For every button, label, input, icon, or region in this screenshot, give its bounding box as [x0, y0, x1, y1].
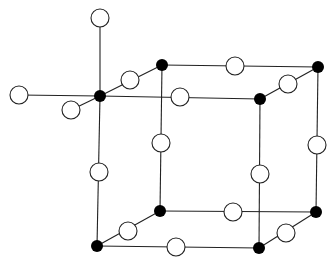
filled-atom-icon: [254, 93, 266, 105]
open-atom-icon: [308, 136, 326, 154]
filled-atom-icon: [156, 59, 168, 71]
open-atom-icon: [121, 71, 139, 89]
filled-atom-icon: [253, 242, 265, 254]
open-atom-icon: [91, 9, 109, 27]
open-atoms: [10, 9, 326, 256]
open-atom-icon: [62, 101, 80, 119]
filled-atom-icon: [312, 61, 324, 73]
bond-lines: [19, 18, 318, 248]
crystal-lattice-diagram: [0, 0, 333, 263]
open-atom-icon: [279, 75, 297, 93]
filled-atom-icon: [154, 205, 166, 217]
open-atom-icon: [167, 238, 185, 256]
open-atom-icon: [224, 203, 242, 221]
filled-atom-icon: [94, 90, 106, 102]
open-atom-icon: [251, 165, 269, 183]
filled-atom-icon: [310, 206, 322, 218]
filled-atom-icon: [91, 240, 103, 252]
open-atom-icon: [90, 163, 108, 181]
open-atom-icon: [226, 57, 244, 75]
open-atom-icon: [171, 88, 189, 106]
open-atom-icon: [119, 222, 137, 240]
open-atom-icon: [277, 224, 295, 242]
bond-line: [19, 95, 100, 96]
open-atom-icon: [10, 86, 28, 104]
open-atom-icon: [152, 134, 170, 152]
